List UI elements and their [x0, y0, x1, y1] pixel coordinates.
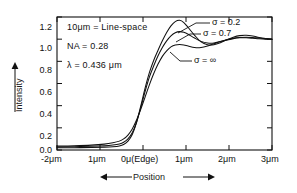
y-tick-label-0-6: 0.6 [26, 87, 52, 97]
x-tick-label-0-edge: 0μ(Edge) [121, 154, 158, 164]
annotation-na: NA = 0.28 [67, 41, 109, 51]
data-curves [57, 20, 272, 147]
y-tick-label-0-8: 0.8 [26, 65, 52, 75]
x-tick-label-3um: 3μm [261, 154, 279, 164]
figure-container: 1.2 1.0 0.8 0.6 0.4 0.2 0.0 -2μm 1μm 0μ(… [0, 0, 297, 193]
curve-label-sigma-0-2: σ = 0.2 [212, 17, 240, 27]
y-tick-label-0-2: 0.2 [26, 131, 52, 141]
curve-label-sigma-0-7: σ = 0.7 [203, 28, 231, 38]
x-tick-label-1um: 1μm [175, 154, 193, 164]
x-tick-label-2um: 2μm [218, 154, 236, 164]
y-axis-arrow-icon [8, 60, 22, 120]
x-tick-label-minus1um: 1μm [88, 154, 106, 164]
annotation-wavelength: λ = 0.436 μm [67, 60, 122, 70]
x-axis-arrow-left-icon [98, 170, 190, 184]
curve-series-2 [57, 37, 272, 146]
curve-series-0 [57, 20, 272, 147]
y-tick-label-1-0: 1.0 [26, 43, 52, 53]
y-tick-label-0-4: 0.4 [26, 109, 52, 119]
curve-label-sigma-inf: σ = ∞ [194, 55, 216, 65]
leader-line-sigma-inf [170, 52, 192, 61]
annotation-line-space: 10μm = Line-space [67, 22, 147, 32]
x-axis-arrow-right-icon [181, 170, 221, 184]
y-tick-label-1-2: 1.2 [26, 22, 52, 32]
x-tick-label-minus2um: -2μm [41, 154, 62, 164]
